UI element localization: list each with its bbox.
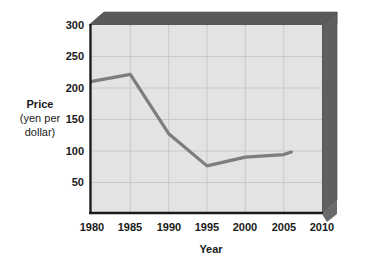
- y-axis-title-unit-line2: dollar): [6, 125, 74, 139]
- x-tick-label-2010: 2010: [304, 221, 340, 233]
- frame-right-bevel: [322, 12, 337, 214]
- y-tick-label-50: 50: [48, 176, 84, 188]
- x-tick-label-2000: 2000: [227, 221, 263, 233]
- x-axis-title: Year: [176, 243, 246, 255]
- x-tick-label-1980: 1980: [74, 221, 110, 233]
- frame-top-face: [89, 12, 337, 25]
- x-tick-label-1990: 1990: [151, 221, 187, 233]
- x-tick-label-2005: 2005: [266, 221, 302, 233]
- x-tick-label-1995: 1995: [189, 221, 225, 233]
- y-axis-title-unit-line1: (yen per: [6, 111, 74, 125]
- y-axis-title: Price (yen per dollar): [6, 97, 74, 139]
- y-tick-label-100: 100: [48, 145, 84, 157]
- x-tick-label-1985: 1985: [112, 221, 148, 233]
- y-tick-label-200: 200: [48, 82, 84, 94]
- line-chart: 300 250 200 150 100 50 1980 1985 1990 19…: [0, 0, 367, 266]
- y-axis-title-main: Price: [6, 97, 74, 111]
- y-tick-label-250: 250: [48, 50, 84, 62]
- y-tick-label-300: 300: [48, 19, 84, 31]
